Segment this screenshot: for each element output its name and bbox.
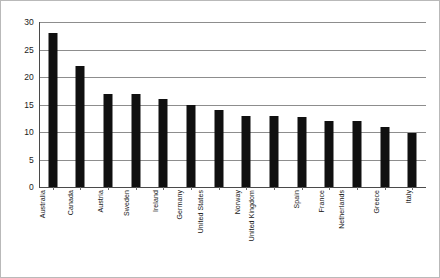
bar-slot	[398, 22, 426, 187]
x-axis-tick-mark	[357, 187, 358, 190]
bar[interactable]	[214, 110, 223, 187]
x-axis-tick-mark	[219, 187, 220, 190]
bar[interactable]	[325, 121, 334, 187]
y-axis-tick-label: 15	[0, 100, 34, 110]
x-axis-tick-mark	[302, 187, 303, 190]
x-axis-baseline	[39, 187, 426, 188]
x-axis-tick-label: United Kingdom	[248, 190, 255, 241]
bar-slot	[315, 22, 343, 187]
x-axis-tick-mark	[163, 187, 164, 190]
y-axis-tick-label: 0	[0, 182, 34, 192]
x-axis-tick-label: Ireland	[152, 190, 159, 212]
x-axis-tick-mark	[53, 187, 54, 190]
bar[interactable]	[242, 116, 251, 188]
x-axis-tick-label: Austria	[97, 190, 104, 213]
bar-slot	[343, 22, 371, 187]
bar[interactable]	[187, 105, 196, 188]
x-axis-tick-label: France	[318, 190, 325, 212]
bar-slot	[371, 22, 399, 187]
bar-slot	[122, 22, 150, 187]
x-axis-tick-mark	[274, 187, 275, 190]
x-axis-tick-label: Canada	[68, 190, 75, 215]
bar-series	[39, 22, 426, 187]
bar[interactable]	[131, 94, 140, 188]
x-axis-label-slot: Italy	[398, 190, 426, 276]
x-axis-tick-mark	[80, 187, 81, 190]
bar-slot	[150, 22, 178, 187]
y-axis-tick-label: 10	[0, 127, 34, 137]
x-axis-label-slot: Norway	[233, 190, 261, 276]
x-axis-tick-mark	[329, 187, 330, 190]
bar[interactable]	[380, 127, 389, 188]
x-axis-label-slot: Spain	[288, 190, 316, 276]
x-axis-tick-label: Germany	[176, 190, 183, 220]
bar-slot	[39, 22, 67, 187]
x-axis-tick-label: Greece	[373, 190, 380, 214]
x-axis-label-slot: Austria	[94, 190, 122, 276]
x-axis-tick-label: United States	[197, 190, 204, 233]
x-axis-tick-mark	[246, 187, 247, 190]
bar-slot	[205, 22, 233, 187]
bar[interactable]	[297, 117, 306, 187]
bar-slot	[288, 22, 316, 187]
x-axis-label-slot: Australia	[39, 190, 67, 276]
bar-chart-figure: 051015202530 AustraliaCanadaAustriaSwede…	[0, 0, 440, 278]
bar[interactable]	[76, 66, 85, 187]
x-axis-label-slot: Canada	[67, 190, 95, 276]
x-axis-tick-label: Italy	[405, 190, 412, 203]
bar-slot	[233, 22, 261, 187]
y-axis-tick-label: 5	[0, 155, 34, 165]
bar[interactable]	[352, 121, 361, 187]
x-axis-label-slot: Netherlands	[343, 190, 371, 276]
x-axis-tick-label: Sweden	[123, 190, 130, 216]
x-axis-tick-label: Australia	[39, 190, 46, 218]
bar-slot	[260, 22, 288, 187]
x-axis-label-slot: Sweden	[122, 190, 150, 276]
y-axis-tick-label: 20	[0, 72, 34, 82]
bar[interactable]	[104, 94, 113, 188]
x-axis-tick-mark	[108, 187, 109, 190]
x-axis-tick-mark	[191, 187, 192, 190]
x-axis-tick-label: Spain	[292, 190, 299, 208]
bar[interactable]	[48, 33, 57, 187]
x-axis-label-slot: Ireland	[150, 190, 178, 276]
bar-slot	[94, 22, 122, 187]
bar-slot	[177, 22, 205, 187]
y-axis-tick-label: 25	[0, 45, 34, 55]
bar[interactable]	[408, 133, 417, 187]
x-axis-label-slot: United Kingdom	[260, 190, 288, 276]
x-axis-tick-label: Netherlands	[337, 190, 344, 229]
x-axis-tick-mark	[136, 187, 137, 190]
bar[interactable]	[159, 99, 168, 187]
bar[interactable]	[269, 116, 278, 188]
x-axis-category-labels: AustraliaCanadaAustriaSwedenIrelandGerma…	[39, 190, 426, 276]
x-axis-tick-label: Norway	[234, 190, 241, 214]
y-axis-tick-label: 30	[0, 17, 34, 27]
x-axis-tick-mark	[385, 187, 386, 190]
bar-slot	[67, 22, 95, 187]
x-axis-label-slot: Greece	[371, 190, 399, 276]
x-axis-label-slot: United States	[205, 190, 233, 276]
